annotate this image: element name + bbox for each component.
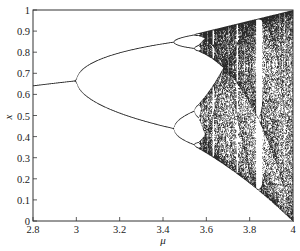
y-tick-label: 0.8 [17, 47, 30, 58]
y-tick-label: 0.5 [17, 111, 30, 122]
y-tick-label: 0.2 [17, 174, 30, 185]
x-tick-label: 3.2 [113, 224, 126, 235]
x-axis-label: μ [159, 234, 166, 246]
y-tick-label: 0.3 [17, 153, 30, 164]
y-tick-label: 0.7 [17, 68, 30, 79]
y-axis-ticks: 00.10.20.30.40.50.60.70.80.91 [17, 5, 37, 227]
x-tick-label: 3 [74, 224, 79, 235]
y-tick-label: 0 [25, 216, 30, 227]
y-axis-label: x [2, 114, 14, 120]
x-tick-label: 3.8 [243, 224, 256, 235]
x-tick-label: 3.6 [200, 224, 213, 235]
attractor-points [33, 10, 294, 222]
y-tick-label: 0.6 [17, 89, 30, 100]
x-axis-ticks: 2.833.23.43.63.84 [26, 217, 296, 235]
x-tick-label: 4 [290, 224, 296, 235]
bifurcation-chart: 2.833.23.43.63.84 00.10.20.30.40.50.60.7… [0, 0, 300, 251]
y-tick-label: 0.1 [17, 195, 30, 206]
y-tick-label: 0.9 [17, 26, 30, 37]
y-tick-label: 1 [25, 5, 30, 16]
y-tick-label: 0.4 [17, 132, 31, 143]
attractor-scatter [33, 10, 294, 222]
